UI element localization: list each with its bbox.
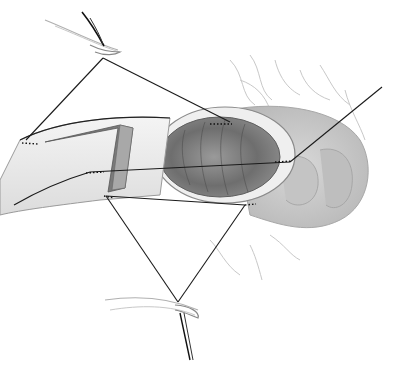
surgical-diagram [0, 0, 397, 375]
lower-needle-holder [105, 298, 198, 360]
illustration-canvas [0, 0, 397, 375]
bowel-end-open [155, 107, 295, 203]
bowel-stump-cut [0, 117, 170, 215]
upper-needle-holder [45, 12, 120, 55]
